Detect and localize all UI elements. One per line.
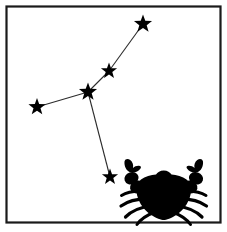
illustration-canvas: Iota CancriDelta CancriBeta CancriAlpha … (0, 0, 227, 232)
cancer-illustration: Iota CancriDelta CancriBeta CancriAlpha … (0, 0, 227, 232)
